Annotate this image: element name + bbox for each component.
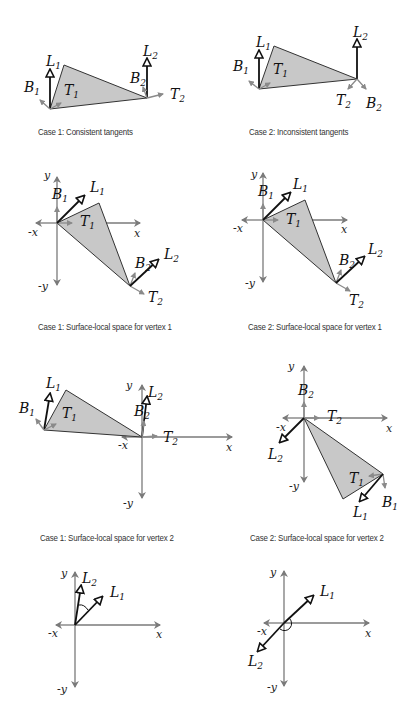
binormal-b2 <box>357 79 366 89</box>
axis-label-y: y <box>60 567 68 580</box>
label-l1: L1 <box>292 176 308 194</box>
label-b2: B2 <box>365 95 382 113</box>
axis-label-x: x <box>226 441 233 454</box>
binormal-b1 <box>36 419 44 430</box>
panel-case2-vertex2: y -x x -y B2 T2 L2 T1 B1 L1 <box>267 360 398 522</box>
binormal-b1 <box>40 100 50 109</box>
label-t2: T2 <box>170 86 185 104</box>
binormal-b1 <box>383 474 385 488</box>
label-b2: B2 <box>129 70 146 88</box>
label-l2: L2 <box>147 384 163 402</box>
label-t2: T2 <box>349 292 364 310</box>
triangle <box>263 200 336 283</box>
label-l1: L1 <box>89 179 105 197</box>
label-l2: L2 <box>247 653 263 671</box>
triangle <box>44 390 142 437</box>
axis-label-neg-x: -x <box>118 439 129 452</box>
axis-label-neg-y: -y <box>245 277 256 290</box>
axis-label-y: y <box>287 360 295 373</box>
label-l2: L2 <box>367 241 383 259</box>
label-t2: T2 <box>148 289 163 307</box>
axis-label-neg-x: -x <box>276 421 287 434</box>
panel-case2-vertex1: y -x x -y B1 L1 T1 B2 L2 T2 <box>233 168 383 310</box>
tangent-t2 <box>130 286 144 294</box>
axis-label-neg-y: -y <box>267 681 278 694</box>
axis-label-y: y <box>43 169 51 182</box>
panel-case1-vertex1: y -x x -y B1 L1 T1 B2 L2 T2 <box>28 169 179 307</box>
caption-case1-vertex2: Case 1: Surface-local space for vertex 2 <box>40 533 174 543</box>
label-b1: B1 <box>232 58 249 76</box>
label-l1: L1 <box>109 584 125 602</box>
caption-case1-tangents: Case 1: Consistent tangents <box>38 127 133 137</box>
label-b2: B2 <box>133 403 150 421</box>
binormal-b1 <box>249 81 259 89</box>
label-b2: B2 <box>338 252 355 270</box>
axis-label-neg-y: -y <box>57 683 68 696</box>
label-l2: L2 <box>352 24 368 42</box>
caption-case2-vertex2: Case 2: Surface-local space for vertex 2 <box>250 533 384 543</box>
label-l1: L1 <box>255 34 271 52</box>
axis-label-y: y <box>269 566 277 579</box>
label-l2: L2 <box>81 570 97 588</box>
label-t2: T2 <box>327 408 342 426</box>
axis-label-neg-x: -x <box>48 627 59 640</box>
panel-case2-tangents: L1 B1 T1 L2 T2 B2 <box>232 24 382 113</box>
panel-case1-vertex2: y -x x -y L1 B1 T1 L2 B2 T2 <box>18 375 233 510</box>
light-vector-l1 <box>284 596 313 623</box>
label-b1: B1 <box>51 186 68 204</box>
caption-case2-tangents: Case 2: Inconsistent tangents <box>249 127 348 137</box>
label-b1: B1 <box>18 400 35 418</box>
caption-case2-vertex1: Case 2: Surface-local space for vertex 1 <box>248 322 382 332</box>
panel-case1-tangents: L1 B1 T1 L2 B2 T2 <box>23 43 185 109</box>
label-t2: T2 <box>163 429 178 447</box>
axis-label-x: x <box>386 422 393 435</box>
axis-label-neg-x: -x <box>28 226 39 239</box>
tangent-space-diagram: L1 B1 T1 L2 B2 T2 L1 B1 T1 L2 T2 B2 y <box>0 0 420 701</box>
angle-arc <box>79 605 88 610</box>
label-b1: B1 <box>23 79 40 97</box>
tangent-t2 <box>147 94 163 98</box>
axis-label-neg-y: -y <box>289 480 300 493</box>
axis-label-y: y <box>250 168 258 181</box>
axis-label-neg-y: -y <box>38 280 49 293</box>
axis-label-x: x <box>341 223 348 236</box>
axis-label-neg-x: -x <box>257 625 268 638</box>
label-b1: B1 <box>381 494 398 512</box>
axis-label-neg-y: -y <box>123 497 134 510</box>
label-l2: L2 <box>163 246 179 264</box>
label-l1: L1 <box>352 504 368 522</box>
label-t2: T2 <box>336 92 351 110</box>
tangent-t2 <box>348 79 357 89</box>
caption-case1-vertex1: Case 1: Surface-local space for vertex 1 <box>38 322 172 332</box>
triangle <box>57 203 130 286</box>
axis-label-neg-x: -x <box>233 222 244 235</box>
axis-label-x: x <box>365 627 372 640</box>
axis-label-x: x <box>134 227 141 240</box>
label-l1: L1 <box>319 583 335 601</box>
label-b2: B2 <box>297 382 314 400</box>
panel-case2-light-compare: y -x x -y L1 L2 <box>247 566 372 694</box>
label-l2: L2 <box>267 446 283 464</box>
label-b2: B2 <box>134 255 151 273</box>
tangent-t2 <box>336 283 350 291</box>
label-l1: L1 <box>45 53 61 71</box>
panel-case1-light-compare: y -x x -y L2 L1 <box>48 567 163 696</box>
axis-label-y: y <box>125 379 133 392</box>
label-l1: L1 <box>45 375 61 393</box>
label-l2: L2 <box>142 43 158 61</box>
label-b1: B1 <box>257 183 274 201</box>
axis-label-x: x <box>156 628 163 641</box>
